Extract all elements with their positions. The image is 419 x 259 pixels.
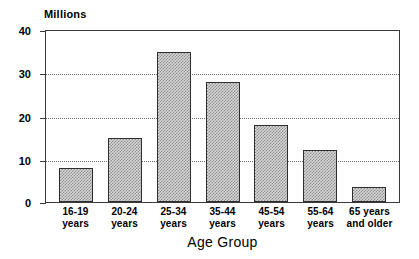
bar-slot: [344, 31, 393, 202]
x-label-line1: 45-54: [258, 206, 284, 217]
x-label-line2: years: [198, 218, 247, 230]
x-label-line1: 35-44: [209, 206, 235, 217]
x-label-45-54-years: 45-54 years: [247, 206, 296, 230]
plot-area: 40 30 20 10 0: [45, 30, 400, 203]
bars-container: [46, 31, 399, 202]
bar-35-44-years[interactable]: [206, 82, 240, 202]
x-label-line1: 25-34: [160, 206, 186, 217]
y-axis-unit-label: Millions: [44, 8, 87, 20]
x-label-line2: years: [100, 218, 149, 230]
y-tick-label-20: 20: [19, 112, 31, 124]
bar-slot: [52, 31, 101, 202]
x-axis-title: Age Group: [45, 234, 400, 250]
bar-45-54-years[interactable]: [254, 125, 288, 202]
x-label-line1: 55-64: [307, 206, 333, 217]
y-tick-label-40: 40: [19, 25, 31, 37]
y-tick-label-0: 0: [25, 197, 31, 209]
x-label-65-years-and-older: 65 years and older: [345, 206, 394, 230]
bar-65-years-and-older[interactable]: [352, 187, 386, 202]
x-label-55-64-years: 55-64 years: [296, 206, 345, 230]
x-axis-category-labels: 16-19 years 20-24 years 25-34 years 35-4…: [45, 206, 400, 230]
x-label-line1: 65 years: [349, 206, 390, 217]
bar-chart: Millions 40 30 20 10 0: [0, 0, 419, 259]
x-label-16-19-years: 16-19 years: [51, 206, 100, 230]
x-label-line2: years: [149, 218, 198, 230]
x-label-20-24-years: 20-24 years: [100, 206, 149, 230]
bar-slot: [101, 31, 150, 202]
x-label-line2: years: [51, 218, 100, 230]
bar-20-24-years[interactable]: [108, 138, 142, 203]
y-tick-0: 0: [40, 203, 46, 204]
x-label-line1: 16-19: [62, 206, 88, 217]
bar-16-19-years[interactable]: [59, 168, 93, 202]
x-label-line2: and older: [345, 218, 394, 230]
bar-slot: [247, 31, 296, 202]
bar-slot: [296, 31, 345, 202]
bar-slot: [149, 31, 198, 202]
bar-25-34-years[interactable]: [157, 52, 191, 203]
bar-slot: [198, 31, 247, 202]
y-tick-label-30: 30: [19, 68, 31, 80]
x-label-line2: years: [296, 218, 345, 230]
bar-55-64-years[interactable]: [303, 150, 337, 202]
x-label-line1: 20-24: [111, 206, 137, 217]
x-label-25-34-years: 25-34 years: [149, 206, 198, 230]
y-tick-label-10: 10: [19, 155, 31, 167]
x-label-35-44-years: 35-44 years: [198, 206, 247, 230]
x-label-line2: years: [247, 218, 296, 230]
